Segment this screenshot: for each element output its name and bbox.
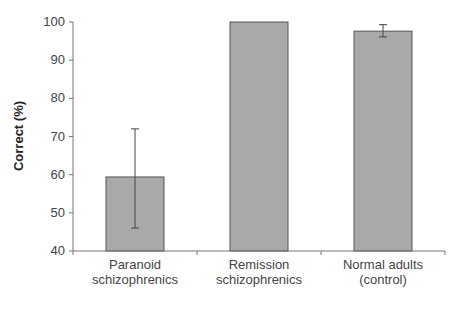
bar-chart: Correct (%) 405060708090100 Paranoidschi… [0,0,465,311]
y-tick-label: 80 [35,90,65,105]
x-category-label: Normal adults(control) [323,257,443,287]
y-axis-label: Correct (%) [11,101,26,171]
y-tick-label: 60 [35,167,65,182]
y-tick-label: 50 [35,205,65,220]
y-tick-label: 90 [35,52,65,67]
bar [354,31,412,251]
x-category-label: Remissionschizophrenics [199,257,319,287]
y-tick-label: 70 [35,129,65,144]
bar [230,22,288,251]
y-tick-label: 40 [35,243,65,258]
x-category-label: Paranoidschizophrenics [75,257,195,287]
y-tick-label: 100 [35,14,65,29]
